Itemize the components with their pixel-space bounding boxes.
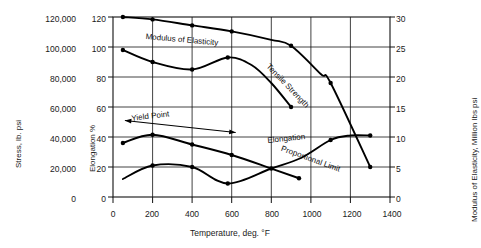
data-point-marker: [190, 23, 194, 27]
series-line-proportional-limit: [123, 135, 299, 179]
tick-marks-right: [390, 17, 395, 197]
series-layer: [121, 15, 373, 186]
data-point-marker: [230, 153, 234, 157]
data-point-marker: [269, 166, 273, 170]
series-line-tensile-strength: [123, 50, 291, 107]
data-point-marker: [289, 44, 293, 48]
data-point-marker: [328, 138, 332, 142]
series-line-modulus-of-elasticity: [123, 17, 370, 167]
data-point-marker: [150, 17, 154, 21]
data-point-marker: [190, 165, 194, 169]
chart-plot-svg: [0, 0, 481, 248]
yield-point-arrow-line: [125, 121, 236, 133]
data-point-marker: [150, 163, 154, 167]
data-point-marker: [230, 29, 234, 33]
data-point-marker: [297, 176, 301, 180]
data-point-marker: [121, 48, 125, 52]
data-point-marker: [150, 60, 154, 64]
tick-marks-left: [108, 17, 113, 197]
data-point-marker: [150, 133, 154, 137]
data-point-marker: [190, 142, 194, 146]
data-point-marker: [226, 181, 230, 185]
data-point-marker: [121, 15, 125, 19]
data-point-marker: [121, 141, 125, 145]
chart-figure: Stress, lb. psi Elongation % Modulus of …: [0, 0, 481, 248]
data-point-marker: [368, 165, 372, 169]
data-point-marker: [289, 105, 293, 109]
tick-marks-bottom: [113, 197, 390, 203]
annotation-layer: [125, 119, 236, 134]
data-point-marker: [226, 55, 230, 59]
data-point-marker: [190, 67, 194, 71]
data-point-marker: [328, 81, 332, 85]
data-point-marker: [368, 133, 372, 137]
